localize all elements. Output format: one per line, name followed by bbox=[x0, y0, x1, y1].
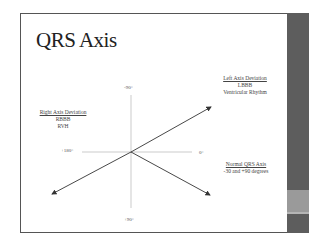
left-axis-deviation-heading: Left Axis Deviation bbox=[210, 75, 280, 82]
right-axis-deviation-label: Right Axis Deviation RBBB RVH bbox=[28, 109, 98, 130]
degree-label-left: +180° bbox=[61, 148, 73, 153]
normal-axis-heading: Normal QRS Axis bbox=[210, 161, 282, 168]
right-deviation-arrow bbox=[52, 152, 131, 194]
left-axis-deviation-line: LBBB bbox=[210, 82, 280, 89]
degree-label-top: -90° bbox=[124, 85, 133, 90]
degree-label-bottom: +90° bbox=[124, 217, 134, 222]
right-axis-deviation-heading: Right Axis Deviation bbox=[28, 109, 98, 116]
left-axis-deviation-label: Left Axis Deviation LBBB Ventricular Rhy… bbox=[210, 75, 280, 96]
left-deviation-arrow bbox=[131, 107, 211, 152]
right-axis-deviation-line: RBBB bbox=[28, 116, 98, 123]
left-axis-deviation-line: Ventricular Rhythm bbox=[210, 89, 280, 96]
degree-label-right: 0° bbox=[199, 150, 204, 155]
normal-axis-arrow bbox=[131, 152, 210, 195]
right-axis-deviation-line: RVH bbox=[28, 123, 98, 130]
normal-axis-line: -30 and +90 degrees bbox=[210, 168, 282, 175]
normal-axis-label: Normal QRS Axis -30 and +90 degrees bbox=[210, 161, 282, 175]
